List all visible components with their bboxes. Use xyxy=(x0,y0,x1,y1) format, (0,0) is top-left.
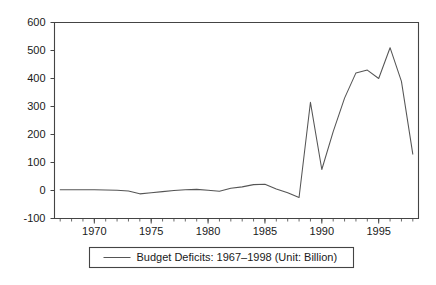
x-axis-tick-label: 1985 xyxy=(253,225,277,237)
y-axis-tick-label: 500 xyxy=(27,44,45,56)
y-axis-tick-label: 400 xyxy=(27,72,45,84)
x-axis-tick-label: 1995 xyxy=(366,225,390,237)
y-axis-tick-label: 300 xyxy=(27,100,45,112)
y-axis-tick-group: -1000100200300400500600 xyxy=(23,16,54,224)
y-axis-tick-label: -100 xyxy=(23,212,45,224)
data-series-line xyxy=(60,48,413,198)
y-axis-tick-label: 200 xyxy=(27,128,45,140)
x-axis-tick-label: 1990 xyxy=(310,225,334,237)
chart-figure: -1000100200300400500600 1970197519801985… xyxy=(0,0,436,285)
legend-label: Budget Deficits: 1967–1998 (Unit: Billio… xyxy=(137,251,338,263)
y-axis-tick-label: 100 xyxy=(27,156,45,168)
x-axis-tick-label: 1970 xyxy=(82,225,106,237)
line-chart: -1000100200300400500600 1970197519801985… xyxy=(0,0,436,285)
x-axis-tick-label: 1980 xyxy=(196,225,220,237)
chart-legend: Budget Deficits: 1967–1998 (Unit: Billio… xyxy=(90,248,354,268)
x-axis-tick-label: 1975 xyxy=(139,225,163,237)
y-axis-tick-label: 600 xyxy=(27,16,45,28)
y-axis-tick-label: 0 xyxy=(39,184,45,196)
axes-frame xyxy=(55,23,419,219)
